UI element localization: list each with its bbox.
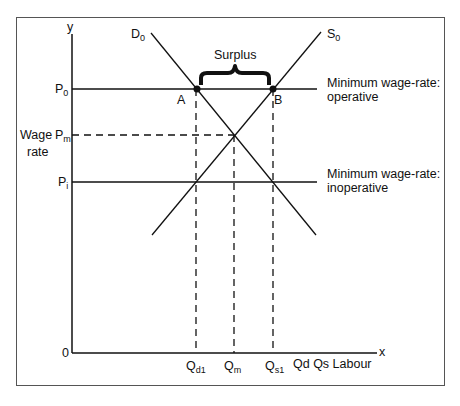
supply-curve-label: S0 [327,27,340,41]
x-axis-label: x [379,345,385,359]
point-a-label: A [177,93,185,107]
operative-annotation-line1: Minimum wage-rate: [327,76,440,90]
p0-label: P0 [55,82,68,96]
supply-label-sub: 0 [335,33,340,43]
demand-curve [151,33,316,235]
qs1-label: Qs1 [265,359,284,373]
p0-label-sub: 0 [63,88,68,98]
pm-label-sub: m [63,134,71,144]
qs1-label-base: Q [265,359,275,373]
qm-label-base: Q [224,359,234,373]
qs1-label-sub: s1 [275,365,285,375]
y-axis-title-line1: Wage [20,128,52,142]
demand-label-sub: 0 [140,33,145,43]
qm-label: Qm [224,359,241,373]
point-a-marker [194,86,201,93]
inoperative-annotation-line1: Minimum wage-rate: [327,167,440,181]
demand-curve-label: D0 [131,27,145,41]
y-axis-title-line2: rate [27,145,49,159]
qd1-label-base: Q [186,359,196,373]
supply-curve [152,32,321,235]
pi-label: Pi [58,175,68,189]
surplus-brace [201,66,269,85]
point-b-label: B [274,93,282,107]
point-b-marker [270,86,277,93]
demand-label-base: D [131,27,140,41]
inoperative-annotation-line2: inoperative [327,181,388,195]
pm-label: Pm [55,128,71,142]
surplus-label: Surplus [214,48,256,62]
x-axis-title: Qd Qs Labour [293,357,372,371]
qd1-label-sub: d1 [196,365,206,375]
qm-label-sub: m [234,365,242,375]
pi-label-sub: i [66,181,68,191]
origin-label: 0 [62,346,69,360]
y-axis-label: y [67,20,73,34]
qd1-label: Qd1 [186,359,206,373]
operative-annotation-line2: operative [327,90,378,104]
